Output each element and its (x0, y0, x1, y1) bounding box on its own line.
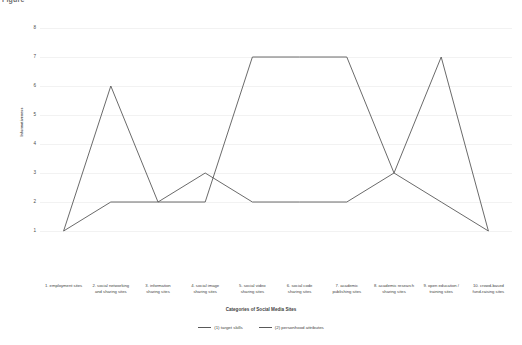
x-axis-category-label-line: sharing sites (276, 289, 323, 295)
y-axis-tick-label: 2 (24, 200, 36, 205)
series-line-1 (64, 57, 489, 231)
x-axis-category-label: 6. social codesharing sites (276, 283, 323, 296)
y-axis-tick-label: 3 (24, 171, 36, 176)
x-axis-category-label-line: publishing sites (323, 289, 370, 295)
y-axis-tick-label: 5 (24, 113, 36, 118)
x-axis-category-label: 1. employment sites (40, 283, 87, 289)
chart-title: Figure (2, 0, 25, 5)
series-line-2 (64, 57, 489, 231)
x-axis-title: Categories of Social Media Sites (0, 307, 522, 312)
chart-legend: (1) target skills(2) personhood attribut… (0, 325, 522, 330)
legend-line-icon (198, 327, 211, 328)
x-axis-category-label-line: sharing sites (370, 289, 417, 295)
x-axis-category-label-line: training sites (418, 289, 465, 295)
plot-area (40, 28, 512, 260)
x-axis-category-label: 2. social networkingand sharing sites (87, 283, 134, 296)
x-axis-category-label: 8. academic researchsharing sites (370, 283, 417, 296)
line-chart: Figure Informativeness 12345678 1. emplo… (0, 0, 522, 345)
y-axis-tick-label: 7 (24, 55, 36, 60)
x-axis-category-label-line: sharing sites (229, 289, 276, 295)
legend-entry[interactable]: (1) target skills (198, 325, 243, 330)
x-axis-category-label: 4. social imagesharing sites (182, 283, 229, 296)
x-axis-category-label: 5. social videosharing sites (229, 283, 276, 296)
x-axis-category-label-line: and sharing sites (87, 289, 134, 295)
x-axis-category-labels: 1. employment sites2. social networkinga… (40, 283, 512, 305)
legend-label: (2) personhood attributes (275, 325, 324, 330)
x-axis-category-label-line: sharing sites (134, 289, 181, 295)
x-axis-category-label-line: 1. employment sites (40, 283, 87, 289)
x-axis-category-label: 9. open education /training sites (418, 283, 465, 296)
y-axis-tick-label: 6 (24, 84, 36, 89)
y-axis-tick-label: 4 (24, 142, 36, 147)
x-axis-category-label-line: sharing sites (182, 289, 229, 295)
x-axis-category-label: 3. informationsharing sites (134, 283, 181, 296)
series-lines (40, 28, 512, 260)
y-axis-tick-label: 1 (24, 229, 36, 234)
x-axis-category-label: 10. crowd-basedfund-raising sites (465, 283, 512, 296)
legend-line-icon (259, 327, 272, 328)
legend-entry[interactable]: (2) personhood attributes (259, 325, 324, 330)
legend-label: (1) target skills (214, 325, 243, 330)
y-axis-tick-label: 8 (24, 26, 36, 31)
x-axis-category-label-line: fund-raising sites (465, 289, 512, 295)
x-axis-category-label: 7. academicpublishing sites (323, 283, 370, 296)
